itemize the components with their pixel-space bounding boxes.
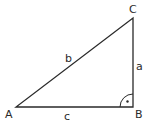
side-label-a: a xyxy=(136,60,143,73)
right-angle-dot xyxy=(126,100,128,102)
vertex-label-c: C xyxy=(129,3,137,16)
side-label-c: c xyxy=(64,110,70,123)
right-angle-arc xyxy=(120,94,133,107)
right-triangle-diagram: A B C a b c xyxy=(0,0,147,126)
side-label-b: b xyxy=(65,52,72,65)
triangle-shape xyxy=(16,18,133,107)
vertex-label-b: B xyxy=(135,108,143,121)
vertex-label-a: A xyxy=(5,108,13,121)
